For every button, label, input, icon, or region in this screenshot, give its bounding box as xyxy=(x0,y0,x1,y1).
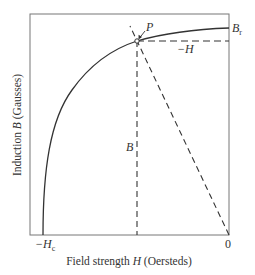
x-axis-title: Field strength H (Oersteds) xyxy=(66,255,192,268)
neg-hc-tick-label: −Hc xyxy=(35,237,56,253)
neg-h-label: −H xyxy=(177,42,195,56)
bh-curve xyxy=(43,28,229,235)
plot-frame xyxy=(30,14,229,235)
demagnetization-diagram: P Br −H B −Hc 0 Field strength H (Oerste… xyxy=(0,0,255,275)
b-label: B xyxy=(126,140,134,154)
br-label: Br xyxy=(232,21,242,37)
load-line xyxy=(130,26,229,235)
point-p-label: P xyxy=(145,20,154,34)
y-axis-title: Induction B (Gausses) xyxy=(11,74,24,176)
zero-tick-label: 0 xyxy=(225,237,231,251)
